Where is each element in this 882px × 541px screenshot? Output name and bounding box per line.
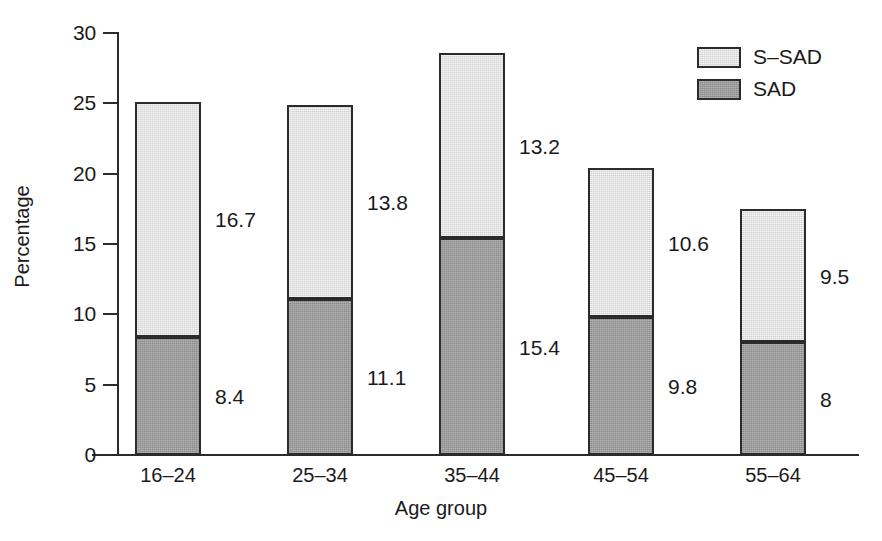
bar-value-label-sad: 15.4 [519, 337, 560, 358]
bar-segment-sad[interactable] [740, 342, 806, 455]
y-axis-tick [103, 102, 117, 104]
x-axis-category-label: 55–64 [713, 464, 833, 487]
y-axis-tick [103, 173, 117, 175]
bar-segment-s-sad[interactable] [740, 209, 806, 343]
y-axis-tick-label-wrap: 25 [26, 92, 96, 113]
bar-value-label-sad: 11.1 [367, 367, 406, 388]
x-axis-category-label: 25–34 [260, 464, 380, 487]
bar-value-label-s-sad: 10.6 [668, 233, 709, 254]
bar-value-label-sad: 9.8 [668, 376, 697, 397]
y-axis-tick-label: 0 [34, 444, 96, 465]
y-axis-tick-label-wrap: 0 [26, 444, 96, 465]
legend-label: SAD [753, 76, 796, 102]
y-axis-tick-label: 25 [34, 92, 96, 113]
x-axis-category-label: 16–24 [108, 464, 228, 487]
bar-segment-sad[interactable] [135, 337, 201, 455]
bar-value-label-s-sad: 16.7 [215, 209, 256, 230]
y-axis-tick [103, 32, 117, 34]
legend-swatch [697, 47, 741, 68]
y-axis-tick [103, 313, 117, 315]
bar-value-label-s-sad: 13.8 [367, 192, 408, 213]
y-axis-tick [103, 384, 117, 386]
bar-value-label-sad: 8.4 [215, 386, 244, 407]
y-axis-tick-label-wrap: 20 [26, 163, 96, 184]
y-axis-tick-label-wrap: 5 [26, 374, 96, 395]
y-axis-tick-label-wrap: 15 [26, 233, 96, 254]
bar-segment-s-sad[interactable] [588, 168, 654, 317]
bar-value-label-sad: 8 [820, 389, 832, 410]
y-axis-line [117, 32, 119, 456]
bar-segment-sad[interactable] [439, 238, 505, 455]
legend-swatch [697, 79, 741, 100]
bar-group[interactable]: 13.215.4 [439, 0, 505, 541]
y-axis-tick-label: 15 [34, 233, 96, 254]
x-axis-category-label: 45–54 [561, 464, 681, 487]
bar-group[interactable]: 10.69.8 [588, 0, 654, 541]
bar-segment-s-sad[interactable] [439, 53, 505, 239]
bar-value-label-s-sad: 9.5 [820, 266, 849, 287]
x-axis-category-label: 35–44 [412, 464, 532, 487]
bar-value-label-s-sad: 13.2 [519, 136, 560, 157]
bar-group[interactable]: 13.811.1 [287, 0, 353, 541]
bar-segment-sad[interactable] [287, 299, 353, 455]
y-axis-tick [103, 454, 117, 456]
y-axis-tick [103, 243, 117, 245]
y-axis-title: Percentage [11, 147, 34, 327]
stacked-bar-chart: 051015202530 Percentage Age group 16.78.… [0, 0, 882, 541]
y-axis-tick-label: 20 [34, 163, 96, 184]
bar-segment-s-sad[interactable] [135, 102, 201, 337]
y-axis-tick-label-wrap: 30 [26, 22, 96, 43]
bar-segment-sad[interactable] [588, 317, 654, 455]
y-axis-tick-label-wrap: 10 [26, 303, 96, 324]
bar-group[interactable]: 16.78.4 [135, 0, 201, 541]
legend-label: S–SAD [753, 44, 822, 70]
y-axis-tick-label: 5 [34, 374, 96, 395]
y-axis-tick-label: 30 [34, 22, 96, 43]
y-axis-tick-label: 10 [34, 303, 96, 324]
bar-segment-s-sad[interactable] [287, 105, 353, 299]
